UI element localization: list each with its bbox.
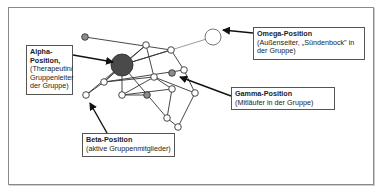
gamma-description: (Mitläufer in der Gruppe) (235, 99, 331, 108)
beta-node (168, 47, 175, 54)
beta-node (101, 79, 108, 86)
beta-node (119, 92, 126, 99)
beta-node (83, 92, 90, 99)
alpha-node (111, 54, 133, 76)
alpha-description: (Therapeutin/ Gruppenleiter der Gruppe) (30, 65, 69, 91)
arrow-alpha (73, 55, 113, 62)
arrow-gamma (180, 77, 231, 96)
edge (178, 93, 195, 127)
beta-node (151, 74, 158, 81)
beta-node (169, 86, 176, 93)
alpha-position-label: Alpha- Position, (Therapeutin/ Gruppenle… (26, 45, 73, 95)
beta-node (192, 90, 199, 97)
beta-node (143, 42, 150, 49)
edge (85, 37, 171, 50)
gamma-node (82, 34, 89, 41)
omega-position-label: Omega-Position (Außenseiter, „Sündenbock… (253, 27, 365, 60)
omega-node (205, 29, 221, 45)
omega-description: (Außenseiter, „Sündenbock" in der Gruppe… (257, 39, 361, 56)
beta-node (181, 67, 188, 74)
gamma-position-label: Gamma-Position (Mitläufer in der Gruppe) (231, 87, 335, 110)
beta-description: (aktive Gruppenmitglieder) (86, 145, 171, 154)
gamma-node (144, 92, 151, 99)
edge (146, 45, 154, 77)
beta-node (175, 124, 182, 131)
arrow-omega (223, 30, 253, 33)
gamma-node (169, 70, 176, 77)
edge (167, 89, 172, 118)
beta-node (164, 115, 171, 122)
arrow-beta (90, 103, 107, 133)
beta-position-label: Beta-Position (aktive Gruppenmitglieder) (82, 133, 175, 157)
